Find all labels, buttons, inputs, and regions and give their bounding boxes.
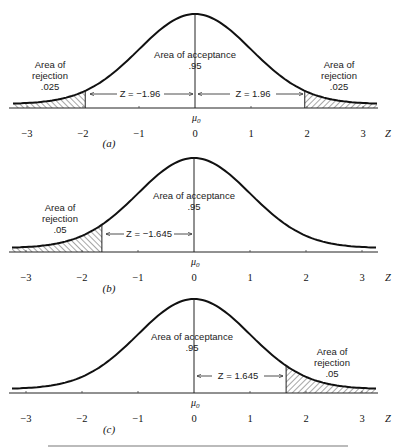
tick-label: −3 <box>21 128 32 139</box>
rejection-area-right <box>305 91 377 108</box>
axis-tick-labels: −3−2−10123Z <box>21 128 391 139</box>
rejection-area-left <box>13 91 85 108</box>
rejection-label-right: Area of <box>324 59 355 70</box>
rejection-label-right: rejection <box>321 70 357 81</box>
acceptance-value: .95 <box>188 60 201 71</box>
tick-label: −2 <box>77 128 88 139</box>
tick-label: 1 <box>248 128 253 139</box>
tick-label: 3 <box>359 272 364 283</box>
rejection-value-right: .05 <box>325 368 338 379</box>
tick-label: −1 <box>133 128 144 139</box>
mu-zero-label: μ0 <box>191 112 201 125</box>
rejection-label-right: Area of <box>317 346 348 357</box>
panel-c: Z = 1.645 Area of acceptance .95 Area of… <box>9 299 391 436</box>
critical-value-label-right: Z = 1.96 <box>235 88 270 99</box>
axis-tick-labels: −3−2−10123Z <box>20 413 391 424</box>
rejection-label-left: rejection <box>42 213 78 224</box>
tick-label: 3 <box>360 128 365 139</box>
tick-label: 2 <box>303 413 308 424</box>
tick-label: −3 <box>20 272 31 283</box>
axis-label-z: Z <box>385 128 391 139</box>
tick-label: 0 <box>191 413 196 424</box>
acceptance-label: Area of acceptance <box>153 190 235 201</box>
mu-zero-label: μ0 <box>190 397 200 410</box>
acceptance-value: .95 <box>187 201 200 212</box>
mu-zero-label: μ0 <box>190 256 200 269</box>
panel-label: (a) <box>103 137 116 150</box>
tick-label: 1 <box>247 272 252 283</box>
tick-label: 3 <box>359 413 364 424</box>
acceptance-label: Area of acceptance <box>154 49 236 60</box>
rejection-value-left: .025 <box>41 81 60 92</box>
axis-label-z: Z <box>385 413 391 424</box>
rejection-value-left: .05 <box>53 224 66 235</box>
acceptance-value: .95 <box>185 342 198 353</box>
panel-label: (b) <box>103 282 116 295</box>
tick-label: −1 <box>132 413 143 424</box>
critical-value-label-right: Z = 1.645 <box>218 370 258 381</box>
rejection-label-left: Area of <box>45 202 76 213</box>
tick-label: −2 <box>76 413 87 424</box>
tick-label: 1 <box>247 413 252 424</box>
panel-b: Z = −1.645 Area of acceptance .95 Area o… <box>9 158 391 295</box>
tick-label: 2 <box>303 272 308 283</box>
tick-label: −3 <box>20 413 31 424</box>
panel-a: Z = −1.96 Z = 1.96 Area of acceptance .9… <box>9 14 391 150</box>
critical-value-label-left: Z = −1.96 <box>120 88 161 99</box>
tick-label: −1 <box>132 272 143 283</box>
critical-value-label-left: Z = −1.645 <box>126 228 172 239</box>
acceptance-label: Area of acceptance <box>151 331 233 342</box>
panel-label: (c) <box>103 423 116 436</box>
rejection-label-left: Area of <box>35 59 66 70</box>
figure: Z = −1.96 Z = 1.96 Area of acceptance .9… <box>0 0 396 447</box>
rejection-label-left: rejection <box>32 70 68 81</box>
tick-label: −2 <box>76 272 87 283</box>
axis-label-z: Z <box>385 272 391 283</box>
rejection-value-right: .025 <box>330 81 349 92</box>
tick-label: 0 <box>191 272 196 283</box>
rejection-label-right: rejection <box>314 357 350 368</box>
tick-label: 0 <box>192 128 197 139</box>
tick-label: 2 <box>304 128 309 139</box>
axis-tick-labels: −3−2−10123Z <box>20 272 391 283</box>
